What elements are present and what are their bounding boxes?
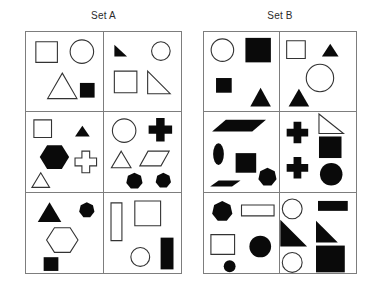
set-a-cell-3-shapes bbox=[26, 112, 103, 191]
rectangle-vertical-filled bbox=[160, 237, 173, 269]
triangle-filled bbox=[75, 126, 90, 137]
parallelogram-filled bbox=[212, 120, 266, 132]
parallelogram-thin-filled bbox=[210, 181, 240, 187]
parallelogram-open bbox=[139, 152, 168, 167]
set-b-cell-4-shapes bbox=[280, 112, 356, 191]
set-b-cell-5[interactable] bbox=[204, 193, 280, 273]
set-b-cell-2[interactable] bbox=[280, 32, 356, 112]
set-a-cell-5-shapes bbox=[26, 193, 103, 273]
triangle-filled bbox=[38, 202, 62, 222]
right-triangle-open bbox=[147, 71, 170, 94]
circle-open bbox=[70, 40, 94, 64]
triangle-filled bbox=[322, 44, 339, 57]
circle-open bbox=[130, 247, 149, 266]
heptagon-filled bbox=[258, 168, 276, 186]
cross-filled bbox=[287, 122, 309, 144]
circle-open bbox=[282, 199, 302, 219]
circle-filled bbox=[320, 163, 343, 186]
circle-filled bbox=[249, 235, 271, 257]
square-open bbox=[211, 234, 235, 254]
circle-filled bbox=[224, 260, 236, 272]
set-a-cell-2-shapes bbox=[104, 32, 182, 111]
heptagon-filled bbox=[126, 173, 142, 189]
heptagon-filled bbox=[155, 173, 170, 188]
circle-open bbox=[112, 119, 136, 143]
set-b-cell-1-shapes bbox=[204, 32, 279, 111]
circle-open bbox=[211, 39, 234, 62]
set-a-cell-1[interactable] bbox=[26, 32, 104, 112]
square-open bbox=[134, 201, 160, 226]
heptagon-filled bbox=[79, 202, 94, 217]
triangle-right-large-filled bbox=[280, 219, 307, 246]
ellipse-vertical-filled bbox=[213, 144, 224, 166]
set-b-grid bbox=[203, 31, 357, 274]
square-filled bbox=[236, 153, 257, 173]
cross-filled bbox=[287, 157, 309, 179]
set-b-cell-1[interactable] bbox=[204, 32, 280, 112]
triangle-filled bbox=[250, 88, 271, 107]
rectangle-vertical-open bbox=[111, 203, 122, 241]
set-a-label: Set A bbox=[25, 10, 182, 22]
right-triangle-filled bbox=[316, 220, 338, 242]
set-a-cell-6[interactable] bbox=[104, 193, 182, 273]
set-b-cell-6-shapes bbox=[280, 193, 356, 273]
triangle-filled bbox=[289, 89, 310, 107]
set-a-cell-1-shapes bbox=[26, 32, 103, 111]
set-a-cell-6-shapes bbox=[104, 193, 182, 273]
hexagon-open bbox=[47, 227, 78, 252]
set-a-cell-4[interactable] bbox=[104, 112, 182, 192]
square-open bbox=[34, 120, 52, 138]
cross-filled bbox=[148, 118, 172, 142]
right-triangle-open bbox=[319, 114, 343, 134]
set-b-cell-6[interactable] bbox=[280, 193, 356, 273]
triangle-open bbox=[111, 152, 131, 169]
set-a-grid bbox=[25, 31, 182, 274]
rectangle-horizontal-filled bbox=[318, 201, 348, 211]
square-open bbox=[287, 41, 306, 59]
square-filled bbox=[245, 38, 270, 62]
triangle-open bbox=[32, 173, 50, 188]
square-filled bbox=[216, 78, 232, 93]
set-a-cell-5[interactable] bbox=[26, 193, 104, 273]
set-b-cell-5-shapes bbox=[204, 193, 279, 273]
right-triangle-filled bbox=[114, 45, 127, 57]
circle-open bbox=[306, 64, 333, 91]
set-b-cell-3[interactable] bbox=[204, 112, 280, 192]
circle-open bbox=[282, 252, 302, 272]
square-open bbox=[36, 42, 58, 63]
set-b-cell-3-shapes bbox=[204, 112, 279, 191]
set-b-cell-2-shapes bbox=[280, 32, 356, 111]
set-a-cell-4-shapes bbox=[104, 112, 182, 191]
shape-panels-stage: Set A Set B bbox=[0, 0, 376, 297]
square-filled bbox=[80, 83, 95, 98]
rectangle-horizontal-open bbox=[242, 205, 275, 216]
square-filled bbox=[44, 257, 59, 271]
set-a-cell-2[interactable] bbox=[104, 32, 182, 112]
heptagon-filled bbox=[212, 201, 232, 221]
cross-open bbox=[75, 152, 97, 174]
square-filled bbox=[316, 245, 345, 272]
square-open bbox=[114, 71, 137, 93]
square-filled bbox=[319, 137, 342, 159]
triangle-open bbox=[48, 73, 77, 98]
set-b-label: Set B bbox=[203, 10, 357, 22]
hexagon-filled bbox=[40, 146, 69, 170]
set-b-cell-4[interactable] bbox=[280, 112, 356, 192]
circle-open bbox=[151, 42, 170, 61]
set-a-cell-3[interactable] bbox=[26, 112, 104, 192]
